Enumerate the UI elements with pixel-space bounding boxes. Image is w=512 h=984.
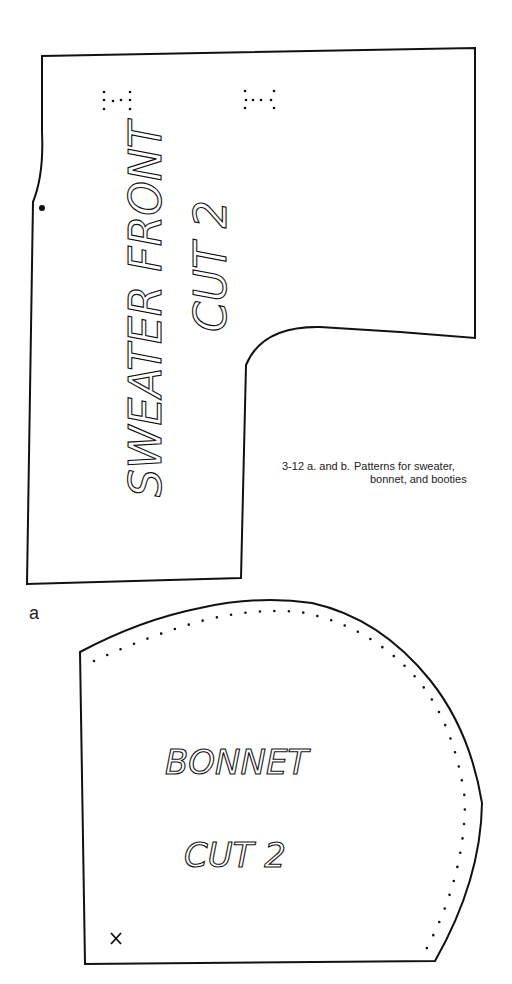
panel-label: a xyxy=(29,603,39,624)
buttonhole-mark-icon xyxy=(244,90,276,110)
pattern-drawing: SWEATER FRONT CUT 2 BONNET CUT 2 xyxy=(0,0,512,984)
bonnet-seam-line xyxy=(94,611,465,957)
sweater-front-title: SWEATER FRONT xyxy=(120,118,171,497)
bonnet-instruction: CUT 2 xyxy=(184,835,286,875)
bonnet-title: BONNET xyxy=(165,742,310,782)
caption-line-2: bonnet, and booties xyxy=(282,473,467,486)
notch-dot-icon xyxy=(39,205,45,211)
buttonhole-mark-icon xyxy=(103,91,132,111)
x-mark-icon xyxy=(111,933,121,944)
figure-caption: 3-12 a. and b.Patterns for sweater, bonn… xyxy=(282,460,467,486)
caption-line-1: Patterns for sweater, xyxy=(354,460,455,472)
caption-number: 3-12 a. and b. xyxy=(282,460,354,473)
sweater-front-outline xyxy=(27,48,475,584)
sweater-front-instruction: CUT 2 xyxy=(185,200,236,332)
